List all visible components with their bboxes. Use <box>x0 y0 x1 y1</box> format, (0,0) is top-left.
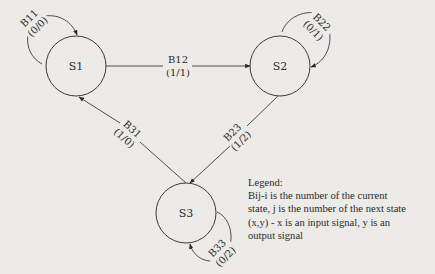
transition-b31: B31 (1/0) <box>79 97 186 183</box>
transition-b23: B23 (1/2) <box>190 96 278 183</box>
transition-b12-signal: (1/1) <box>166 67 190 78</box>
state-s3: S3 <box>156 183 216 243</box>
transition-b31-line-upper <box>79 97 120 123</box>
transition-b12-name: B12 <box>168 54 188 65</box>
transition-b11: B11 (0/0) <box>15 4 78 64</box>
transition-b23-line-upper <box>247 96 278 126</box>
legend: Legend: Bij-i is the number of the curre… <box>248 176 435 242</box>
transition-b31-line-lower <box>140 142 186 183</box>
legend-line-3: (x,y) - x is an input signal, y is an <box>248 216 435 229</box>
state-s1-label: S1 <box>69 60 84 73</box>
state-s2-label: S2 <box>273 60 288 73</box>
transition-b12: B12 (1/1) <box>106 54 250 78</box>
legend-title: Legend: <box>248 176 435 189</box>
transition-b23-line-lower <box>190 146 230 183</box>
state-s2: S2 <box>250 36 310 96</box>
legend-line-2: state, j is the number of the next state <box>248 202 435 215</box>
state-s1: S1 <box>46 36 106 96</box>
legend-line-1: Bij-i is the number of the current <box>248 189 435 202</box>
legend-line-4: output signal <box>248 229 435 242</box>
state-s3-label: S3 <box>179 207 194 220</box>
